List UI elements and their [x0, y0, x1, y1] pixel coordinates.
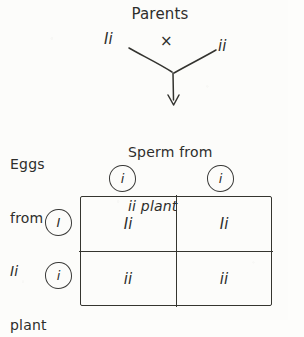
left-parent-connector-line — [129, 48, 172, 72]
punnett-grid: Ii Ii ii ii — [80, 196, 272, 306]
column-gamete-1: i — [109, 165, 136, 192]
cross-symbol: × — [160, 33, 173, 51]
sperm-label-line-1: Sperm from — [128, 144, 213, 162]
eggs-label-line-2: from — [10, 210, 47, 228]
column-gamete-2: i — [207, 165, 234, 192]
punnett-cell-r2c1: ii — [80, 251, 176, 306]
eggs-label-line-4: plant — [10, 317, 47, 335]
punnett-cell-r1c2: Ii — [176, 196, 272, 251]
punnett-cell-r2c2: ii — [176, 251, 272, 306]
parents-title: Parents — [16, 6, 304, 24]
punnett-cell-r1c1: Ii — [80, 196, 176, 251]
arrow-shaft — [173, 73, 174, 100]
arrow-head — [168, 95, 179, 105]
eggs-label-line-1: Eggs — [10, 156, 47, 174]
eggs-source-label: Eggs from Ii plant — [10, 120, 47, 337]
row-gamete-1: I — [45, 209, 72, 236]
right-parent-connector-line — [174, 50, 216, 73]
parent-left-genotype: Ii — [104, 31, 113, 49]
row-gamete-2: i — [45, 262, 72, 289]
eggs-label-line-3: Ii — [10, 263, 47, 281]
parent-right-genotype: ii — [218, 38, 227, 56]
